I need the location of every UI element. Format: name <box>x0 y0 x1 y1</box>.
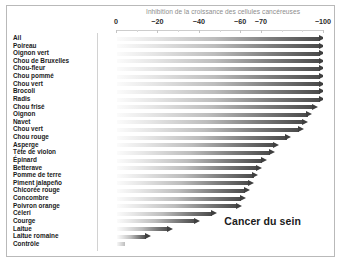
bar-arrowhead-icon <box>319 43 324 49</box>
category-label: Chou frisé <box>13 103 45 110</box>
x-tick-mark <box>261 30 262 33</box>
chart-bar <box>117 136 287 140</box>
chart-bar <box>117 242 125 246</box>
bar-arrowhead-icon <box>319 65 324 71</box>
x-axis-tick-labels: 0−20−40−60−70−100 <box>0 17 341 28</box>
chart-bar-row <box>98 81 323 89</box>
chart-bar-row <box>98 88 323 96</box>
category-label: Courge <box>13 217 35 224</box>
chart-bar <box>117 227 169 231</box>
chart-bar <box>117 212 212 216</box>
plot-area: Cancer du sein <box>97 33 323 251</box>
category-label: Brocoli <box>13 87 35 94</box>
chart-bar <box>117 59 320 63</box>
chart-bar <box>117 235 146 239</box>
category-label: Chou-fleur <box>13 64 45 71</box>
bar-arrowhead-icon <box>306 111 312 117</box>
chart-bar <box>117 166 258 170</box>
x-tick-label: −40 <box>193 17 205 26</box>
category-label: Épinard <box>13 156 37 163</box>
chart-bar-row <box>98 73 323 81</box>
category-label: Céleri <box>13 209 31 216</box>
bar-arrowhead-icon <box>269 149 275 155</box>
chart-bar-row <box>98 65 323 73</box>
category-label: Piment jalapeño <box>13 179 62 186</box>
category-label: Tête de violon <box>13 148 56 155</box>
category-label: Contrôle <box>13 240 39 247</box>
bar-arrowhead-icon <box>319 35 324 41</box>
bar-arrowhead-icon <box>240 195 246 201</box>
axis-title: Inhibition de la croissance des cellules… <box>118 8 328 15</box>
bar-arrowhead-icon <box>319 88 324 94</box>
chart-bar <box>117 37 320 41</box>
category-label: Concombre <box>13 194 49 201</box>
chart-bar-row <box>98 187 323 195</box>
chart-bar <box>117 151 270 155</box>
category-label: Chou pommé <box>13 72 54 79</box>
chart-bar-row <box>98 142 323 150</box>
chart-bar <box>117 204 237 208</box>
chart-bar-row <box>98 233 323 241</box>
category-label: Betterave <box>13 164 42 171</box>
category-label: Oignon <box>13 110 35 117</box>
category-label: Chou vert <box>13 125 43 132</box>
chart-bar-row <box>98 172 323 180</box>
chart-bar <box>117 189 245 193</box>
bar-arrowhead-icon <box>211 210 217 216</box>
x-tick-mark-minor <box>220 30 221 32</box>
bar-arrowhead-icon <box>319 96 324 102</box>
chart-bar <box>117 44 320 48</box>
chart-bar <box>117 105 314 109</box>
chart-bar-row <box>98 126 323 134</box>
chart-bar-row <box>98 50 323 58</box>
chart-bar <box>117 219 196 223</box>
x-tick-mark-minor <box>302 30 303 32</box>
x-tick-mark-minor <box>137 30 138 32</box>
x-tick-mark-minor <box>178 30 179 32</box>
chart-bar <box>117 52 320 56</box>
bar-arrowhead-icon <box>248 180 254 186</box>
bar-arrowhead-icon <box>261 157 267 163</box>
x-tick-mark <box>157 30 158 33</box>
x-tick-mark <box>240 30 241 33</box>
chart-bar-row <box>98 157 323 165</box>
chart-bar-row <box>98 218 323 226</box>
category-label: Chou vert <box>13 80 43 87</box>
category-label: Oignon vert <box>13 49 49 56</box>
chart-figure: Inhibition de la croissance des cellules… <box>0 0 341 263</box>
chart-bar-row <box>98 203 323 211</box>
chart-bar-row <box>98 104 323 112</box>
chart-bar <box>117 82 320 86</box>
bar-arrowhead-icon <box>256 165 262 171</box>
x-tick-mark <box>199 30 200 33</box>
chart-bar <box>117 197 241 201</box>
chart-bar-row <box>98 226 323 234</box>
bar-arrowhead-icon <box>167 226 173 232</box>
x-tick-mark <box>323 30 324 33</box>
category-label: Chicorée rouge <box>13 186 60 193</box>
bar-arrowhead-icon <box>298 126 304 132</box>
bar-arrowhead-icon <box>319 50 324 56</box>
chart-bar <box>117 98 320 102</box>
x-tick-label: −70 <box>255 17 267 26</box>
bar-arrowhead-icon <box>319 58 324 64</box>
chart-bar-row <box>98 241 323 249</box>
chart-bar <box>117 174 254 178</box>
category-label: Poireau <box>13 42 36 49</box>
category-label-column: AilPoireauOignon vertChou de BruxellesCh… <box>13 33 97 251</box>
category-label: Navet <box>13 118 30 125</box>
bar-arrowhead-icon <box>236 203 242 209</box>
x-tick-mark <box>116 30 117 33</box>
bar-arrowhead-icon <box>194 218 200 224</box>
chart-bar-row <box>98 149 323 157</box>
chart-bar <box>117 159 262 163</box>
bar-arrowhead-icon <box>285 134 291 140</box>
bar-arrowhead-icon <box>312 104 318 110</box>
chart-bar <box>117 120 303 124</box>
chart-bar <box>117 113 308 117</box>
chart-bar <box>117 128 299 132</box>
category-label: Radis <box>13 95 30 102</box>
bar-arrowhead-icon <box>302 119 308 125</box>
bar-arrowhead-icon <box>319 73 324 79</box>
category-label: Poivron orange <box>13 202 60 209</box>
